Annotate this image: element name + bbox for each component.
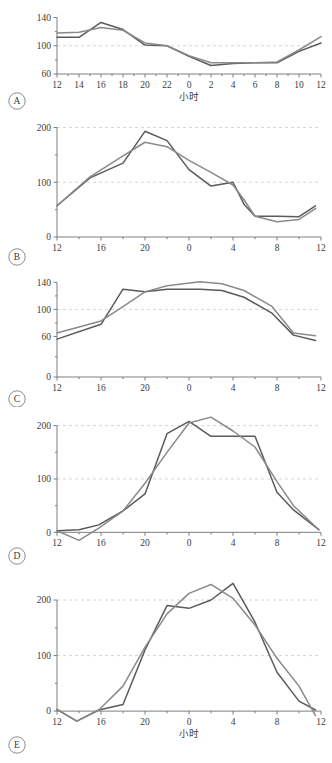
panel-d: 010020012162004812D [0,407,332,565]
y-tick-label: 0 [46,232,51,242]
x-tick-label: 0 [187,243,192,253]
x-tick-label: 20 [140,538,150,548]
panel-c: 06010014012162004812C [0,267,332,407]
x-axis-title: 小时 [179,728,199,739]
y-tick-label: 200 [37,421,52,431]
x-tick-label: 12 [52,538,62,548]
x-tick-label: 8 [275,243,280,253]
x-tick-label: 20 [140,80,150,90]
x-tick-label: 8 [275,383,280,393]
x-tick-label: 12 [316,383,326,393]
x-tick-label: 12 [316,538,326,548]
y-tick-label: 200 [37,595,52,605]
y-tick-label: 60 [42,332,52,342]
x-tick-label: 4 [231,538,236,548]
panel-letter-c: C [14,394,20,404]
y-tick-label: 140 [37,13,52,23]
y-tick-label: 100 [37,178,52,188]
x-tick-label: 8 [275,717,280,727]
panel-e: 010020012162004812小时E [0,565,332,763]
x-tick-label: 16 [96,243,106,253]
x-tick-label: 12 [316,80,326,90]
x-tick-label: 12 [316,243,326,253]
x-tick-label: 12 [52,80,62,90]
panel-d-plot: 010020012162004812D [0,407,332,565]
panel-a-plot: 60100140121416182022024681012小时A [0,0,332,112]
x-tick-label: 22 [162,80,172,90]
x-tick-label: 6 [253,80,258,90]
y-tick-label: 100 [37,474,52,484]
x-tick-label: 4 [231,717,236,727]
x-tick-label: 12 [52,717,62,727]
x-tick-label: 14 [74,80,84,90]
panel-c-plot: 06010014012162004812C [0,267,332,407]
x-tick-label: 8 [275,80,280,90]
y-tick-label: 0 [46,706,51,716]
y-tick-label: 0 [46,528,51,538]
panel-b: 010020012162004812B [0,112,332,267]
x-tick-label: 16 [96,717,106,727]
panel-e-plot: 010020012162004812小时E [0,565,332,763]
y-tick-label: 200 [37,123,52,133]
y-tick-label: 140 [37,278,52,288]
x-tick-label: 16 [96,538,106,548]
x-tick-label: 0 [187,538,192,548]
x-tick-label: 12 [52,243,62,253]
x-tick-label: 8 [275,538,280,548]
x-tick-label: 16 [96,80,106,90]
multi-panel-diurnal-figure: 60100140121416182022024681012小时A01002001… [0,0,332,763]
x-tick-label: 12 [52,383,62,393]
panel-letter-a: A [14,96,21,106]
x-tick-label: 18 [118,80,128,90]
panel-letter-b: B [14,252,20,262]
series-line-modeled [57,27,321,62]
x-axis-title: 小时 [179,91,199,102]
y-tick-label: 0 [46,372,51,382]
x-tick-label: 4 [231,243,236,253]
x-tick-label: 16 [96,383,106,393]
x-tick-label: 0 [187,383,192,393]
x-tick-label: 4 [231,383,236,393]
panel-b-plot: 010020012162004812B [0,112,332,267]
x-tick-label: 4 [231,80,236,90]
x-tick-label: 0 [187,80,192,90]
y-tick-label: 60 [42,69,52,79]
series-line-modeled [57,584,316,721]
panel-letter-d: D [14,551,21,561]
series-line-observed [57,289,316,340]
x-tick-label: 20 [140,717,150,727]
y-tick-label: 100 [37,651,52,661]
x-tick-label: 2 [209,80,214,90]
y-tick-label: 100 [37,41,52,51]
x-tick-label: 10 [294,80,304,90]
y-tick-label: 100 [37,305,52,315]
series-line-observed [57,583,316,721]
x-tick-label: 20 [140,243,150,253]
panel-letter-e: E [14,740,20,750]
panel-a: 60100140121416182022024681012小时A [0,0,332,112]
x-tick-label: 0 [187,717,192,727]
series-line-observed [57,131,316,216]
series-line-observed [57,421,319,530]
x-tick-label: 12 [316,717,326,727]
x-tick-label: 20 [140,383,150,393]
